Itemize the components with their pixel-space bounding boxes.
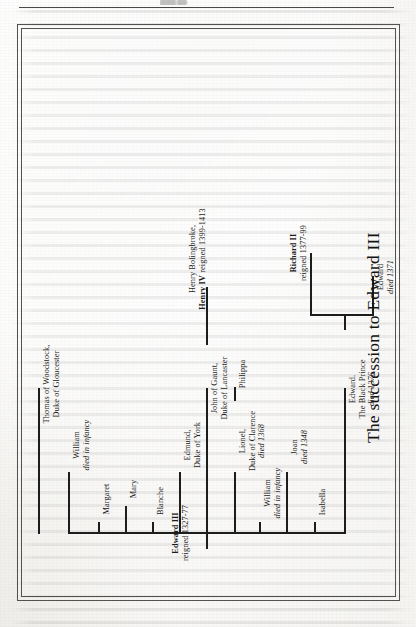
scanned-page: Edward III reigned 1327-77 [0,0,416,627]
node-william-infancy: William died in infancy [263,468,282,519]
node-henry-line1: Henry Bolingbroke, [188,225,197,293]
node-philippa-name: Philippa [238,360,247,388]
node-edward-1371-death: died 1371 [386,260,395,294]
node-richard-ii-reign: reigned 1377-99 [299,225,308,281]
node-joan: Joan died 1348 [290,430,309,464]
arm-isabella [314,522,316,534]
arm-richard-ii [310,253,312,316]
node-william-2-name: William [72,431,81,459]
arm-lionel-clarence [234,472,236,534]
node-thomas-line2: Duke of Gloucester [52,351,61,418]
cropped-header-text-remnant [160,0,200,5]
node-edmund-line2: Duke of York [193,422,202,468]
page-header-rule [19,7,394,8]
arm-blanche [152,522,154,534]
node-margaret-name: Margaret [102,483,111,514]
node-gaunt-line1: John of Gaunt, [210,363,219,413]
node-thomas-woodstock: Thomas of Woodstock, Duke of Gloucester [42,345,61,424]
node-philippa: Philippa [238,360,248,388]
node-mary-name: Mary [129,480,138,498]
node-isabella: Isabella [318,489,328,516]
node-isabella-name: Isabella [318,489,327,516]
node-edmund-line1: Edmund, [183,430,192,461]
node-edmund-york: Edmund, Duke of York [183,422,202,468]
arm-mary [125,506,127,534]
arm-margaret [98,522,100,534]
stub-black-prince-to-spine [344,315,346,330]
node-edward-black-prince-line1: Edward. [348,375,357,404]
figure-title: The succession to Edward III [363,232,384,443]
node-mary: Mary [129,480,139,498]
arm-edward-black-prince [344,388,346,534]
node-gaunt-line2: Duke of Lancaster [220,357,229,420]
node-lionel-line2: Duke of Clarence [248,411,257,471]
node-john-of-gaunt: John of Gaunt, Duke of Lancaster [210,357,229,420]
node-joan-death: died 1348 [300,430,309,464]
node-thomas-line1: Thomas of Woodstock, [42,345,51,424]
node-henry-iv: Henry Bolingbroke, Henry IV reigned 1399… [188,208,207,309]
arm-philippa [234,387,236,401]
arm-william-2-infancy [68,472,70,534]
node-lionel-line1: Lionel, [238,429,247,453]
family-tree-diagram: Edward III reigned 1327-77 [21,28,396,597]
arm-edmund-york [179,472,181,534]
node-blanche-name: Blanche [156,487,165,515]
node-william-infancy-note: died in infancy [273,468,282,519]
node-margaret: Margaret [102,483,112,514]
node-henry-iv-name: Henry IV [198,275,207,310]
node-william-2-note: died in infancy [82,420,91,471]
node-richard-ii: Richard II reigned 1377-99 [289,225,308,281]
node-blanche: Blanche [156,487,166,515]
node-richard-ii-name: Richard II [289,234,298,273]
node-lionel-death: died 1368 [257,424,266,458]
arm-william-infancy [259,522,261,534]
arm-thomas-woodstock [38,388,40,534]
rotated-figure-container: Edward III reigned 1327-77 [21,28,396,597]
stub-edward-iii-to-spine [206,533,208,549]
node-henry-iv-reign: reigned 1399-1413 [198,208,207,273]
node-lionel-clarence: Lionel, Duke of Clarence died 1368 [238,411,267,471]
node-william-2-infancy: William died in infancy [72,420,91,471]
node-william-infancy-name: William [263,479,272,507]
arm-john-of-gaunt [206,388,208,534]
node-joan-name: Joan [290,439,299,455]
arm-joan [286,472,288,534]
